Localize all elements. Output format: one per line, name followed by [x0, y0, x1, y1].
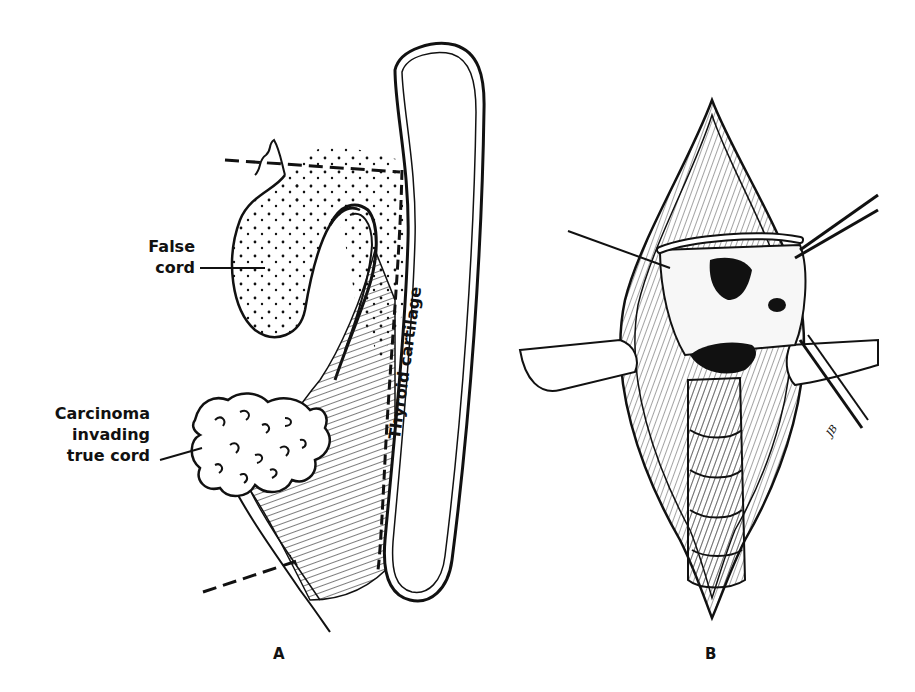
label-carcinoma-line2: invading — [20, 424, 150, 445]
left-retractor — [520, 340, 637, 391]
illustration-canvas — [0, 0, 915, 692]
label-false-cord-line2: cord — [120, 257, 195, 278]
right-retractor — [787, 340, 878, 385]
panel-a-drawing — [160, 44, 484, 632]
thyroid-cartilage — [384, 44, 484, 601]
label-carcinoma-line3: true cord — [20, 445, 150, 466]
label-false-cord-line1: False — [120, 236, 195, 257]
panel-letter-a: A — [273, 645, 285, 663]
trachea — [688, 378, 745, 588]
label-false-cord: False cord — [120, 236, 195, 278]
label-carcinoma-line1: Carcinoma — [20, 403, 150, 424]
label-carcinoma: Carcinoma invading true cord — [20, 403, 150, 466]
panel-letter-b: B — [705, 645, 716, 663]
panel-b-drawing — [520, 100, 878, 618]
